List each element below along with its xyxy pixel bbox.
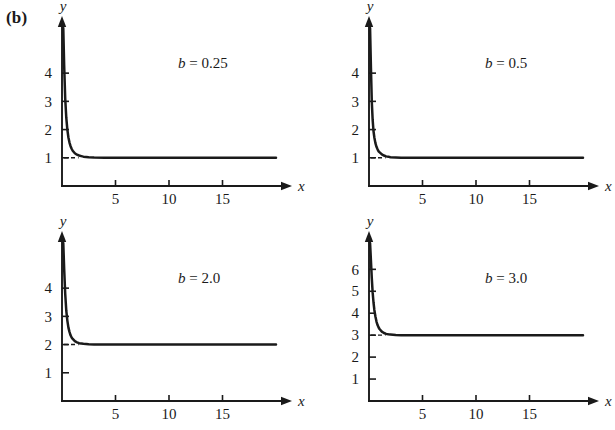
y-axis-label: y xyxy=(58,213,67,229)
y-tick-label: 4 xyxy=(352,65,360,81)
x-tick-label: 10 xyxy=(162,191,177,207)
x-tick-label: 15 xyxy=(215,406,230,422)
y-axis-arrow-icon xyxy=(58,16,66,27)
x-tick-label: 10 xyxy=(162,406,177,422)
x-tick-label: 15 xyxy=(215,191,230,207)
x-tick-label: 15 xyxy=(522,191,537,207)
y-tick-label: 1 xyxy=(45,150,53,166)
y-axis-label: y xyxy=(365,0,374,14)
y-tick-label: 6 xyxy=(352,262,360,278)
y-axis-arrow-icon xyxy=(365,231,373,242)
parameter-annotation: b = 2.0 xyxy=(178,270,220,286)
subplot-b-3.0: 51015123456xyb = 3.0 xyxy=(307,215,614,430)
x-tick-label: 10 xyxy=(469,191,484,207)
y-tick-label: 1 xyxy=(45,365,53,381)
y-tick-label: 3 xyxy=(45,309,53,325)
x-tick-label: 10 xyxy=(469,406,484,422)
subplot-b-0.25: 510151234xyb = 0.25 xyxy=(0,0,307,215)
x-tick-label: 5 xyxy=(419,406,427,422)
parameter-annotation: b = 0.25 xyxy=(178,55,228,71)
y-tick-label: 4 xyxy=(45,280,53,296)
x-axis-arrow-icon xyxy=(281,182,292,190)
parameter-annotation: b = 0.5 xyxy=(485,55,527,71)
figure-panel-b: (b) 510151234xyb = 0.25 510151234xyb = 0… xyxy=(0,0,615,430)
x-axis-label: x xyxy=(604,178,612,194)
y-tick-label: 1 xyxy=(352,150,360,166)
y-tick-label: 2 xyxy=(45,337,53,353)
y-tick-label: 3 xyxy=(352,327,360,343)
data-curve xyxy=(63,28,276,158)
x-axis-label: x xyxy=(297,393,305,409)
plot-canvas: 510151234xyb = 0.25 xyxy=(0,0,307,215)
y-tick-label: 5 xyxy=(352,283,360,299)
parameter-annotation: b = 3.0 xyxy=(485,270,527,286)
x-axis-arrow-icon xyxy=(281,397,292,405)
plot-canvas: 510151234xyb = 0.5 xyxy=(307,0,614,215)
y-tick-label: 2 xyxy=(352,349,360,365)
x-tick-label: 5 xyxy=(112,406,120,422)
x-axis-label: x xyxy=(297,178,305,194)
subplot-b-0.5: 510151234xyb = 0.5 xyxy=(307,0,614,215)
y-tick-label: 1 xyxy=(352,371,360,387)
plot-canvas: 510151234xyb = 2.0 xyxy=(0,215,307,430)
x-axis-label: x xyxy=(604,393,612,409)
data-curve xyxy=(370,28,583,158)
y-tick-label: 4 xyxy=(45,65,53,81)
y-axis-label: y xyxy=(365,213,374,229)
data-curve xyxy=(370,243,583,335)
y-axis-arrow-icon xyxy=(58,231,66,242)
y-axis-arrow-icon xyxy=(365,16,373,27)
y-axis-label: y xyxy=(58,0,67,14)
x-axis-arrow-icon xyxy=(588,182,599,190)
y-tick-label: 3 xyxy=(45,94,53,110)
x-tick-label: 15 xyxy=(522,406,537,422)
subplot-b-2.0: 510151234xyb = 2.0 xyxy=(0,215,307,430)
x-axis-arrow-icon xyxy=(588,397,599,405)
data-curve xyxy=(63,243,276,345)
y-tick-label: 2 xyxy=(45,122,53,138)
plot-canvas: 51015123456xyb = 3.0 xyxy=(307,215,614,430)
x-tick-label: 5 xyxy=(419,191,427,207)
x-tick-label: 5 xyxy=(112,191,120,207)
y-tick-label: 3 xyxy=(352,94,360,110)
y-tick-label: 4 xyxy=(352,305,360,321)
y-tick-label: 2 xyxy=(352,122,360,138)
